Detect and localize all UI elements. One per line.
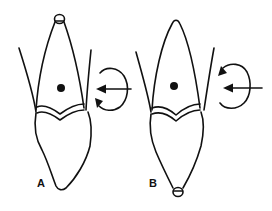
fulcrum-circle-icon-b <box>173 188 183 197</box>
root-outline-b <box>152 20 200 110</box>
force-arrow-left-icon-b <box>223 84 233 93</box>
force-arrow-left-icon-a <box>96 85 106 94</box>
panel-b <box>136 20 262 196</box>
center-of-resistance-dot-icon-a <box>57 84 65 92</box>
alveolar-bone-right-b <box>204 48 214 110</box>
center-of-resistance-dot-icon-b <box>170 82 178 90</box>
alveolar-bone-left-a <box>19 48 36 112</box>
cej-line-lower-a <box>37 110 84 120</box>
alveolar-bone-right-a <box>86 50 91 110</box>
panel-label-b: B <box>149 178 157 189</box>
panel-label-a: A <box>37 178 45 189</box>
root-outline-a <box>36 22 84 110</box>
panel-a <box>19 15 131 190</box>
fulcrum-circle-icon-a <box>55 15 65 24</box>
alveolar-bone-left-b <box>136 52 151 112</box>
crown-outline-b <box>150 112 203 188</box>
